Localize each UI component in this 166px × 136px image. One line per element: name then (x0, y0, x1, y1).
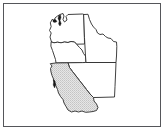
state-washington[interactable] (50, 14, 85, 45)
west-coast-states-map (0, 0, 166, 136)
states-layer (50, 14, 117, 113)
state-oregon[interactable] (51, 42, 86, 64)
map-figure (0, 0, 166, 136)
state-idaho[interactable] (84, 14, 117, 62)
